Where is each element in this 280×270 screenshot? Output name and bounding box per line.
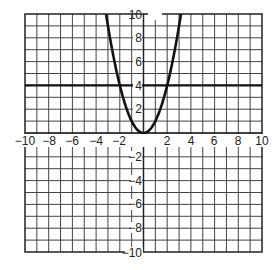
x-label-m8: −8 bbox=[42, 134, 56, 148]
x-label-m10: −10 bbox=[15, 134, 36, 148]
x-label-2: 2 bbox=[164, 134, 171, 148]
x-axis-labels: −10 −8 −6 −4 −2 2 4 6 8 10 bbox=[12, 134, 274, 148]
y-label-4: 4 bbox=[135, 79, 142, 93]
x-label-m6: −6 bbox=[65, 134, 79, 148]
y-label-8: 8 bbox=[135, 31, 142, 45]
x-label-4: 4 bbox=[188, 134, 195, 148]
x-label-10: 10 bbox=[255, 134, 269, 148]
x-label-m4: −4 bbox=[89, 134, 103, 148]
y-label-m2: −2 bbox=[128, 150, 142, 164]
y-label-10: 10 bbox=[129, 8, 143, 22]
y-label-m6: −6 bbox=[128, 197, 142, 211]
x-label-m2: −2 bbox=[112, 134, 126, 148]
coordinate-plane: −10 −8 −6 −4 −2 2 4 6 8 10 10 8 6 4 2 −2… bbox=[0, 0, 280, 270]
x-label-6: 6 bbox=[211, 134, 218, 148]
y-label-m8: −8 bbox=[128, 221, 142, 235]
y-label-6: 6 bbox=[135, 55, 142, 69]
y-label-2: 2 bbox=[135, 102, 142, 116]
y-label-m10: −10 bbox=[122, 246, 143, 260]
x-label-8: 8 bbox=[235, 134, 242, 148]
y-label-m4: −4 bbox=[128, 174, 142, 188]
